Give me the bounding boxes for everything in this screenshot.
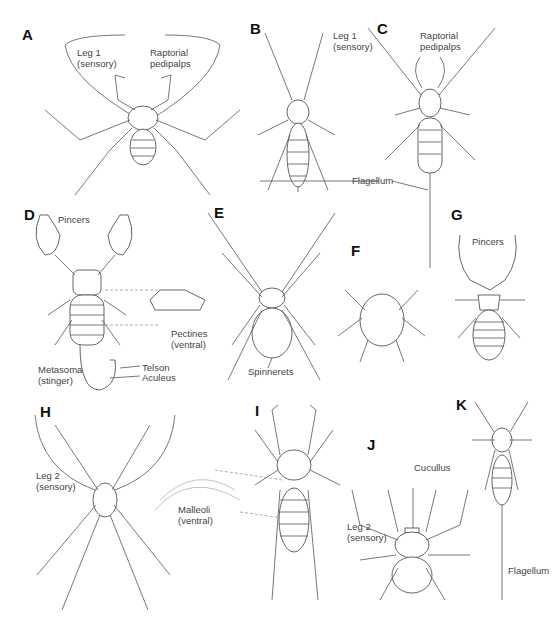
label-a-raptorial-pedipalps: Raptorial pedipalps: [150, 47, 191, 69]
specimen-b-schizomid: [258, 33, 335, 192]
specimen-e-spider: [208, 213, 335, 380]
label-k-flagellum: Flagellum: [508, 565, 549, 576]
label-d-pincers: Pincers: [58, 214, 90, 225]
specimen-h-harvestman: [35, 415, 283, 610]
panel-letter-k: K: [456, 396, 467, 413]
panel-letter-b: B: [250, 20, 261, 37]
specimen-f-tick: [338, 290, 425, 362]
label-d-aculeus: Aculeus: [142, 372, 176, 383]
arachnid-illustrations: [0, 0, 559, 620]
panel-letter-h: H: [40, 403, 51, 420]
label-c-raptorial-pedipalps: Raptorial pedipalps: [420, 30, 461, 52]
panel-letter-c: C: [377, 20, 388, 37]
specimen-g-pseudoscorpion: [455, 235, 525, 360]
specimen-a-whip-spider: [45, 35, 240, 195]
label-flagellum-bc: Flagellum: [352, 175, 393, 186]
label-d-metasoma-stinger: Metasoma (stinger): [38, 364, 82, 386]
label-g-pincers: Pincers: [472, 236, 504, 247]
label-d-pectines-ventral: Pectines (ventral): [171, 328, 207, 350]
label-e-spinnerets: Spinnerets: [248, 366, 293, 377]
label-j-leg2-sensory: Leg 2 (sensory): [347, 521, 387, 543]
panel-letter-e: E: [214, 204, 224, 221]
panel-letter-g: G: [451, 206, 463, 223]
label-h-malleoli-ventral: Malleoli (ventral): [178, 504, 213, 526]
panel-letter-a: A: [22, 26, 33, 43]
panel-letter-j: J: [367, 436, 375, 453]
panel-letter-i: I: [255, 402, 259, 419]
label-h-leg2-sensory: Leg 2 (sensory): [36, 470, 76, 492]
panel-letter-f: F: [351, 242, 360, 259]
specimen-j-ricinuleid: [352, 488, 470, 600]
label-b-leg1-sensory: Leg 1 (sensory): [333, 30, 373, 52]
panel-letter-d: D: [24, 206, 35, 223]
label-j-cucullus: Cucullus: [414, 462, 450, 473]
specimen-i-solifuge: [255, 405, 340, 600]
label-a-leg1-sensory: Leg 1 (sensory): [77, 47, 117, 69]
